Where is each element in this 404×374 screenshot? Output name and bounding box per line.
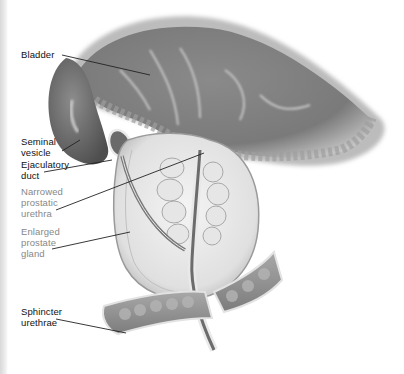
- label-line: duct: [21, 170, 69, 181]
- label-line: Enlarged: [21, 226, 60, 237]
- label-line: Seminal: [21, 136, 56, 147]
- label-line: prostate: [21, 237, 60, 248]
- label-line: prostatic: [21, 197, 63, 208]
- label-ejaculatory-duct: Ejaculatory duct: [21, 159, 69, 181]
- label-sphincter-urethrae: Sphincter urethrae: [21, 306, 62, 328]
- label-narrowed-prostatic-urethra: Narrowed prostatic urethra: [21, 186, 63, 219]
- label-line: Bladder: [21, 49, 54, 60]
- label-line: Ejaculatory: [21, 159, 69, 170]
- label-line: gland: [21, 248, 60, 259]
- label-line: Sphincter: [21, 306, 62, 317]
- anatomy-figure: Bladder Seminal vesicle Ejaculatory duct…: [0, 0, 404, 374]
- label-enlarged-prostate-gland: Enlarged prostate gland: [21, 226, 60, 259]
- prostate-gland: [114, 133, 259, 299]
- label-line: urethra: [21, 208, 63, 219]
- label-line: vesicle: [21, 147, 56, 158]
- label-line: urethrae: [21, 317, 62, 328]
- label-seminal-vesicle: Seminal vesicle: [21, 136, 56, 158]
- label-bladder: Bladder: [21, 49, 54, 60]
- label-line: Narrowed: [21, 186, 63, 197]
